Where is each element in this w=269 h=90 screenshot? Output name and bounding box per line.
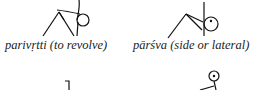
stick-figure-partial-icon xyxy=(0,0,269,90)
